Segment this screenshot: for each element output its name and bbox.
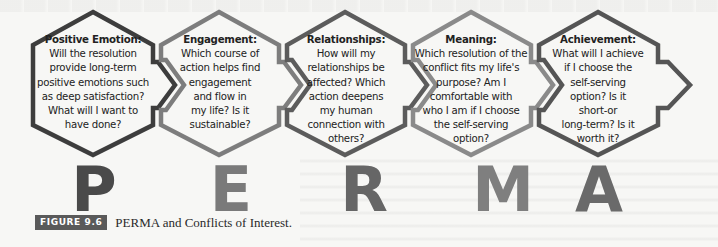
hexagon-title: Achievement: [542, 33, 654, 47]
hexagon-text-positive-emotion: Positive Emotion: Will the resolution pr… [34, 33, 152, 132]
hexagon-question: Which course of action helps find engage… [164, 47, 276, 132]
hexagon-text-relationships: Relationships: How will my relationships… [290, 33, 402, 147]
letter-a: A [568, 160, 628, 220]
figure-number-badge: FIGURE 9.6 [35, 215, 107, 230]
hexagon-text-engagement: Engagement: Which course of action helps… [164, 33, 276, 132]
hexagon-question: Will the resolution provide long-term po… [34, 47, 152, 132]
letter-m: M [472, 160, 532, 220]
letter-e: E [200, 160, 260, 220]
hexagon-text-meaning: Meaning: Which resolution of the conflic… [411, 33, 531, 147]
hexagon-text-achievement: Achievement: What will I achieve if I ch… [542, 33, 654, 147]
hexagon-title: Positive Emotion: [34, 33, 152, 47]
figure-caption-text: PERMA and Conflicts of Interest. [115, 215, 292, 231]
hexagon-title: Meaning: [411, 33, 531, 47]
hexagon-question: Which resolution of the conflict fits my… [411, 47, 531, 146]
figure-caption: FIGURE 9.6 PERMA and Conflicts of Intere… [35, 215, 292, 230]
letter-p: P [63, 160, 123, 220]
hexagon-title: Relationships: [290, 33, 402, 47]
letter-r: R [333, 160, 393, 220]
hexagon-question: What will I achieve if I choose the self… [542, 47, 654, 146]
hexagon-title: Engagement: [164, 33, 276, 47]
hexagon-question: How will my relationships be affected? W… [290, 47, 402, 146]
